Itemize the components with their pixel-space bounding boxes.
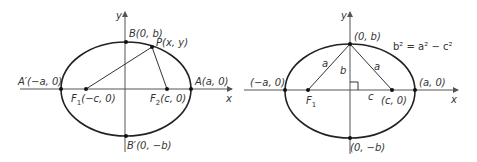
right-angle-marker — [350, 82, 358, 90]
label-focus-right: (c, 0) — [381, 95, 407, 106]
focal-radius-2 — [152, 47, 167, 89]
label-f2: F2(c, 0) — [150, 93, 186, 107]
vertex-top-point — [348, 42, 352, 46]
equation: b² = a² − c² — [393, 41, 452, 52]
vertex-right-point — [413, 88, 417, 92]
x-axis-label: x — [450, 94, 457, 105]
vertex-bottom-point — [348, 136, 352, 140]
y-axis-label: y — [115, 10, 123, 21]
vertex-b-prime-point — [124, 134, 128, 138]
label-f1: F1(−c, 0) — [71, 93, 116, 107]
label-b-prime: B′(0, −b) — [127, 140, 171, 151]
label-a: A(a, 0) — [194, 76, 229, 87]
right-ellipse-diagram: x y (0, b) b² = a² − c² (−a, 0) (a, 0) F… — [244, 10, 458, 154]
left-ellipse-diagram: x y B(0, b) P(x, y) A′(−a, 0) A(a, 0) F1… — [17, 10, 232, 152]
focus-right-point — [390, 88, 394, 92]
x-axis-label: x — [225, 93, 232, 104]
ellipse-diagrams: x y B(0, b) P(x, y) A′(−a, 0) A(a, 0) F1… — [0, 0, 477, 162]
point-p — [150, 45, 154, 49]
label-p: P(x, y) — [156, 37, 188, 48]
vertex-a-point — [189, 87, 193, 91]
vertex-b-point — [124, 40, 128, 44]
label-right: (a, 0) — [419, 77, 446, 88]
focal-radius-1 — [86, 47, 152, 89]
focus-f2-point — [165, 87, 169, 91]
vertex-a-prime-point — [59, 87, 63, 91]
focus-f1-point — [306, 88, 310, 92]
label-segment-a-right: a — [374, 61, 380, 72]
label-segment-b: b — [340, 65, 346, 76]
label-segment-c: c — [368, 91, 374, 102]
label-top: (0, b) — [354, 31, 381, 42]
y-axis-label: y — [340, 10, 348, 21]
label-bottom: (0, −b) — [350, 142, 385, 153]
vertex-left-point — [283, 88, 287, 92]
label-f1: F1 — [306, 95, 316, 109]
label-segment-a-left: a — [322, 58, 328, 69]
focus-f1-point — [84, 87, 88, 91]
label-left: (−a, 0) — [250, 77, 285, 88]
label-a-prime: A′(−a, 0) — [17, 76, 62, 87]
